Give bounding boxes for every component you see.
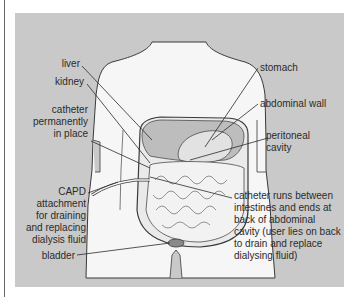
label-catheter-in-place: catheter permanently in place: [33, 104, 88, 140]
label-stomach: stomach: [260, 62, 298, 74]
bladder-organ: [168, 239, 184, 247]
label-capd: CAPD attachment for draining and replaci…: [26, 186, 86, 246]
label-bladder: bladder: [42, 250, 75, 262]
label-abdominal-wall: abdominal wall: [260, 98, 326, 110]
label-catheter-runs: catheter runs between intestines and end…: [234, 190, 341, 262]
label-peritoneal-cavity: peritoneal cavity: [266, 130, 310, 154]
label-kidney: kidney: [55, 76, 84, 88]
label-liver: liver: [62, 58, 80, 70]
intestines: [146, 162, 244, 242]
